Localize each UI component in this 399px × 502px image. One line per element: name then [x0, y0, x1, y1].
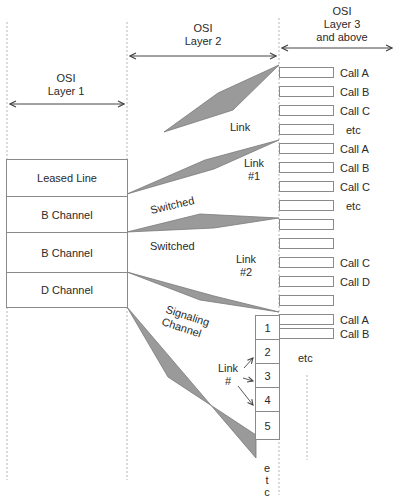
link1-label-line1: Link — [240, 157, 268, 170]
link-number: 4 — [264, 394, 270, 406]
link-number-box-2: 2 — [255, 339, 280, 364]
call-slot — [279, 124, 334, 135]
call-label: Call C — [340, 105, 370, 117]
channel-label: D Channel — [41, 284, 93, 296]
link1-label: Link #1 — [240, 157, 268, 183]
channel-b-channel-2: B Channel — [6, 232, 128, 273]
calls-etc-label: etc — [298, 352, 313, 365]
link-number-box-1: 1 — [255, 315, 280, 340]
layer3-header: OSI Layer 3 and above — [310, 5, 374, 44]
etc-letter: e — [262, 462, 272, 474]
link-number: 3 — [264, 370, 270, 382]
link1-label-line2: #1 — [240, 170, 268, 183]
call-slot — [279, 295, 334, 306]
channel-d-channel: D Channel — [6, 272, 128, 308]
call-slot — [279, 162, 334, 173]
link2-label-line1: Link — [232, 253, 260, 266]
call-slot — [279, 181, 334, 192]
call-slot — [279, 200, 334, 211]
layer3-header-line2: Layer 3 — [310, 18, 374, 31]
call-slot — [279, 276, 334, 287]
call-label: Call B — [340, 162, 369, 174]
layer2-header-line1: OSI — [175, 22, 231, 35]
link-number-box-3: 3 — [255, 363, 280, 388]
call-label: Call B — [340, 328, 369, 340]
link-numbers-etc: e t c — [262, 462, 272, 498]
channel-label: B Channel — [41, 247, 92, 259]
call-slot — [279, 238, 334, 249]
call-label: Call A — [340, 143, 369, 155]
link2-label: Link #2 — [232, 253, 260, 279]
link-number-label: Link # — [215, 362, 241, 388]
link-number-box-4: 4 — [255, 387, 280, 412]
call-slot — [279, 105, 334, 116]
call-slot — [279, 328, 334, 339]
call-slot — [279, 86, 334, 97]
call-label: Call D — [340, 276, 370, 288]
etc-letter: t — [262, 474, 272, 486]
link2-label-line2: #2 — [232, 266, 260, 279]
channel-label: B Channel — [41, 209, 92, 221]
switched-label-2: Switched — [150, 240, 195, 253]
call-label: Call C — [340, 181, 370, 193]
call-slot — [279, 314, 334, 325]
layer2-header: OSI Layer 2 — [175, 22, 231, 48]
layer2-header-line2: Layer 2 — [175, 35, 231, 48]
wedge-switched-link-2 — [127, 214, 279, 232]
layer1-header-line1: OSI — [38, 72, 94, 85]
call-slot — [279, 143, 334, 154]
link-number-label-line2: # — [215, 375, 241, 388]
call-label: Call C — [340, 257, 370, 269]
link-number: 2 — [264, 346, 270, 358]
layer1-header: OSI Layer 1 — [38, 72, 94, 98]
call-slot — [279, 67, 334, 78]
channel-label: Leased Line — [37, 172, 97, 184]
wedge-link — [164, 65, 279, 132]
call-slot — [279, 257, 334, 268]
link-label: Link — [230, 121, 250, 134]
call-slot — [279, 219, 334, 230]
channel-b-channel-1: B Channel — [6, 196, 128, 233]
layer3-header-line1: OSI — [310, 5, 374, 18]
link-number-label-line1: Link — [215, 362, 241, 375]
channel-leased-line: Leased Line — [6, 159, 128, 197]
call-label: etc — [346, 200, 361, 212]
call-label: Call B — [340, 86, 369, 98]
link-number-box-5: 5 — [255, 411, 280, 440]
call-label: Call A — [340, 67, 369, 79]
layer3-header-line3: and above — [310, 31, 374, 44]
call-label: etc — [346, 124, 361, 136]
call-label: Call A — [340, 314, 369, 326]
link-number: 1 — [264, 322, 270, 334]
etc-letter: c — [262, 486, 272, 498]
layer1-header-line2: Layer 1 — [38, 85, 94, 98]
link-number: 5 — [264, 420, 270, 432]
